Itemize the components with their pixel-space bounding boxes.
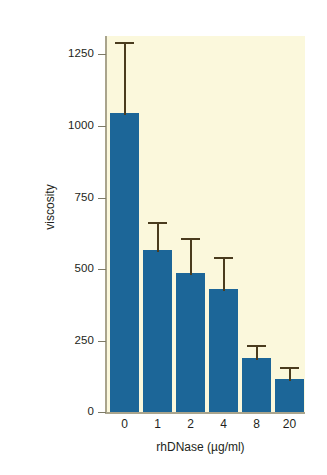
error-stem-3 — [223, 257, 225, 291]
y-tick-250 — [98, 341, 106, 342]
error-stem-2 — [190, 238, 192, 275]
bar-4 — [242, 358, 271, 412]
y-tick-label-1000: 1000 — [50, 120, 94, 132]
y-tick-750 — [98, 198, 106, 199]
x-tick-label-20: 20 — [275, 418, 304, 430]
y-tick-500 — [98, 269, 106, 270]
x-tick-label-1: 1 — [143, 418, 172, 430]
y-tick-label-0: 0 — [50, 406, 94, 418]
y-tick-label-250: 250 — [50, 335, 94, 347]
y-axis-line — [105, 36, 107, 414]
error-stem-0 — [124, 42, 126, 115]
y-tick-label-1250: 1250 — [50, 48, 94, 60]
x-tick-label-4: 4 — [209, 418, 238, 430]
error-stem-5 — [289, 367, 291, 381]
bar-5 — [275, 379, 304, 412]
x-axis-line — [105, 412, 305, 414]
x-tick-label-2: 2 — [176, 418, 205, 430]
y-tick-label-250-wrap: 250 — [44, 335, 94, 347]
x-tick-label-8: 8 — [242, 418, 271, 430]
bar-1 — [143, 250, 172, 412]
y-tick-label-0-wrap: 0 — [44, 406, 94, 418]
y-tick-label-1250-wrap: 1250 — [44, 48, 94, 60]
bar-3 — [209, 289, 238, 412]
error-stem-1 — [157, 222, 159, 252]
bar-chart-figure: 1250 1000 750 500 250 0 viscosity 0 1 2 … — [0, 0, 327, 475]
x-axis-title: rhDNase (µg/ml) — [0, 440, 327, 454]
y-axis-title: viscosity — [43, 167, 57, 247]
y-tick-label-500-wrap: 500 — [44, 263, 94, 275]
y-tick-1000 — [98, 126, 106, 127]
bar-0 — [110, 113, 139, 412]
x-tick-label-0: 0 — [110, 418, 139, 430]
bar-2 — [176, 273, 205, 412]
y-tick-label-1000-wrap: 1000 — [44, 120, 94, 132]
error-stem-4 — [256, 345, 258, 360]
y-tick-0 — [98, 412, 106, 413]
y-tick-label-500: 500 — [50, 263, 94, 275]
y-tick-1250 — [98, 54, 106, 55]
